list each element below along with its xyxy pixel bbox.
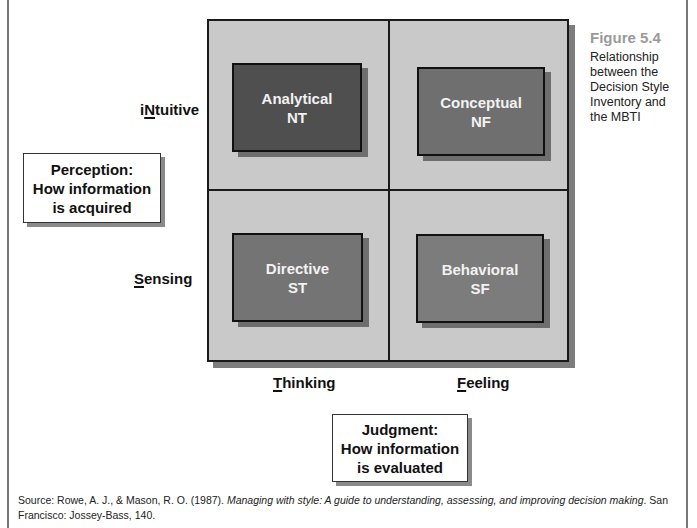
quadrant-name: Conceptual — [440, 93, 522, 112]
quadrant-name: Directive — [266, 259, 329, 278]
axis-label-thinking: Thinking — [273, 374, 336, 391]
figure-caption: Relationship between the Decision Style … — [590, 50, 685, 125]
quadrant-code: SF — [470, 279, 489, 298]
perception-box: Perception: How information is acquired — [23, 153, 161, 223]
axis-label-sensing: Sensing — [134, 270, 192, 287]
quadrant-name: Analytical — [262, 89, 333, 108]
quadrant-conceptual: Conceptual NF — [417, 67, 545, 156]
quadrant-directive: Directive ST — [232, 233, 363, 322]
axis-label-feeling: Feeling — [457, 374, 510, 391]
grid-horizontal-divider — [207, 189, 569, 191]
quadrant-behavioral: Behavioral SF — [416, 234, 544, 323]
quadrant-name: Behavioral — [442, 260, 519, 279]
quadrant-code: ST — [288, 278, 307, 297]
source-citation: Source: Rowe, A. J., & Mason, R. O. (198… — [18, 493, 686, 523]
figure-number: Figure 5.4 — [590, 29, 661, 46]
quadrant-code: NT — [287, 108, 307, 127]
axis-label-intuitive: iNtuitive — [140, 101, 199, 118]
judgment-box: Judgment: How information is evaluated — [332, 414, 468, 482]
quadrant-analytical: Analytical NT — [232, 63, 362, 152]
quadrant-code: NF — [471, 112, 491, 131]
